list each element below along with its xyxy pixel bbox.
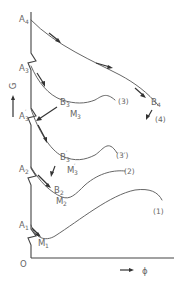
arrow-icon xyxy=(36,107,57,121)
curve-3-label: (3) xyxy=(118,97,129,106)
svg-text:′: ′ xyxy=(66,149,68,156)
curve-1-label: (1) xyxy=(153,207,164,216)
arrow-icon xyxy=(38,175,51,188)
curve-1 xyxy=(31,189,162,238)
svg-text:4: 4 xyxy=(157,101,161,108)
point-m3: M 3 xyxy=(70,109,81,120)
svg-text:3: 3 xyxy=(66,156,70,163)
svg-text:3: 3 xyxy=(25,67,29,74)
point-a4: A 4 xyxy=(19,14,29,25)
svg-text:4: 4 xyxy=(25,18,29,25)
phi-axis-label: ϕ xyxy=(142,266,148,276)
svg-text:′: ′ xyxy=(74,162,76,169)
svg-text:2: 2 xyxy=(25,168,29,175)
svg-text:′: ′ xyxy=(25,108,27,115)
curve-4-label: (4) xyxy=(155,115,166,124)
g-arrow-icon xyxy=(11,95,15,117)
point-b3-prime: B 3 ′ xyxy=(60,149,70,163)
arrow-icon xyxy=(49,33,61,43)
arrow-icon xyxy=(38,125,47,143)
phi-arrow-icon xyxy=(120,268,134,272)
svg-text:2: 2 xyxy=(63,200,67,207)
g-axis-label: G xyxy=(8,83,18,90)
arrow-icon xyxy=(50,166,55,177)
point-b4: B 4 xyxy=(151,97,161,108)
point-a3-prime: A 3 ′ xyxy=(19,108,29,122)
curve-3-prime-label: (3′) xyxy=(116,151,128,160)
arrow-icon xyxy=(146,110,152,120)
point-a3: A 3 xyxy=(19,63,29,74)
energy-curves-diagram: G ϕ O (1) (2) (3′) (3) (4) xyxy=(0,0,176,283)
g-axis-line xyxy=(28,12,36,258)
svg-text:2: 2 xyxy=(60,189,64,196)
point-b3: B 3 xyxy=(60,97,70,108)
point-m1: M 1 xyxy=(38,238,49,249)
svg-text:3: 3 xyxy=(77,113,81,120)
curve-2-label: (2) xyxy=(124,167,135,176)
point-b2: B 2 xyxy=(54,185,64,196)
svg-text:1: 1 xyxy=(45,242,49,249)
point-a1: A 1 xyxy=(19,220,29,231)
origin-label: O xyxy=(20,259,27,269)
arrow-icon xyxy=(96,63,113,69)
svg-text:3: 3 xyxy=(74,169,78,176)
svg-text:3: 3 xyxy=(66,101,70,108)
point-a2: A 2 xyxy=(19,164,29,175)
arrow-icon xyxy=(135,88,146,98)
svg-text:3: 3 xyxy=(25,115,29,122)
point-m3-prime: M 3 ′ xyxy=(67,162,78,176)
svg-text:1: 1 xyxy=(25,224,29,231)
